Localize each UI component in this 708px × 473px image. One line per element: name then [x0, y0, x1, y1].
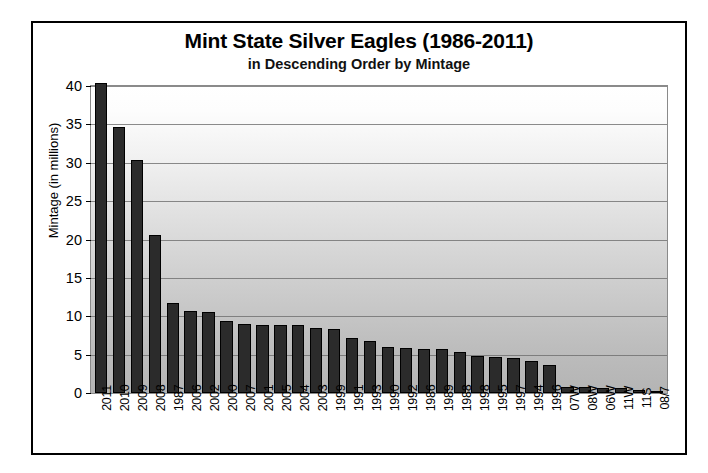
bar-slot: [558, 86, 576, 393]
bar-slot: [594, 86, 612, 393]
y-tick-label: 40: [66, 78, 82, 94]
bar-slot: [325, 86, 343, 393]
y-tick-label: 30: [66, 155, 82, 171]
bar-slot: [289, 86, 307, 393]
bar[interactable]: [310, 328, 322, 393]
bar-slot: [433, 86, 451, 393]
x-label-slot: 2011: [91, 396, 109, 450]
y-tick-label: 10: [66, 308, 82, 324]
bar-slot: [92, 86, 110, 393]
bar[interactable]: [167, 303, 179, 393]
bar[interactable]: [292, 325, 304, 393]
x-label-slot: 2000: [217, 396, 235, 450]
y-tick-label: 25: [66, 193, 82, 209]
bar[interactable]: [113, 127, 125, 393]
bar-slot: [146, 86, 164, 393]
x-label-slot: 1996: [541, 396, 559, 450]
bar-slot: [128, 86, 146, 393]
bar-slot: [236, 86, 254, 393]
bar[interactable]: [274, 325, 286, 393]
bar-slot: [415, 86, 433, 393]
x-label-slot: 1989: [433, 396, 451, 450]
y-tick-mark: [86, 393, 91, 394]
bar-slot: [487, 86, 505, 393]
x-label-slot: 1988: [451, 396, 469, 450]
bar-slot: [451, 86, 469, 393]
x-label-slot: 2008: [145, 396, 163, 450]
bar[interactable]: [131, 160, 143, 393]
bar-slot: [540, 86, 558, 393]
x-label-slot: 1990: [379, 396, 397, 450]
bar-slot: [182, 86, 200, 393]
bar[interactable]: [238, 324, 250, 393]
x-label-slot: 1987: [163, 396, 181, 450]
bar-slot: [164, 86, 182, 393]
bar[interactable]: [149, 235, 161, 393]
bar-slot: [576, 86, 594, 393]
bar-slot: [343, 86, 361, 393]
x-label-slot: 2001: [253, 396, 271, 450]
x-label-slot: 11W: [613, 396, 631, 450]
x-label-slot: 2007: [235, 396, 253, 450]
x-label-slot: 2010: [109, 396, 127, 450]
bar[interactable]: [256, 325, 268, 393]
x-label-slot: 2002: [199, 396, 217, 450]
x-label-slot: 2005: [271, 396, 289, 450]
x-label-slot: 1993: [361, 396, 379, 450]
bar-slot: [469, 86, 487, 393]
bar-slot: [397, 86, 415, 393]
x-label-slot: 2003: [307, 396, 325, 450]
bar[interactable]: [220, 321, 232, 393]
y-tick-label: 15: [66, 270, 82, 286]
x-label-slot: 11S: [631, 396, 649, 450]
x-axis-labels: 2011201020092008198720062002200020072001…: [90, 396, 668, 450]
bar-slot: [307, 86, 325, 393]
x-label-slot: 1999: [325, 396, 343, 450]
x-label-slot: 1998: [469, 396, 487, 450]
bar-slot: [505, 86, 523, 393]
bar-slot: [200, 86, 218, 393]
bar[interactable]: [184, 311, 196, 393]
x-label-slot: 07W: [559, 396, 577, 450]
x-label-slot: 1986: [415, 396, 433, 450]
y-tick-label: 20: [66, 232, 82, 248]
x-label-slot: 06W: [595, 396, 613, 450]
x-label-slot: 2004: [289, 396, 307, 450]
chart-title: Mint State Silver Eagles (1986-2011): [33, 29, 685, 53]
y-axis-label: Mintage (in millions): [46, 91, 61, 271]
x-label-slot: 08W: [577, 396, 595, 450]
bar-series: [91, 86, 667, 393]
x-label-slot: 1994: [523, 396, 541, 450]
plot-area: 0510152025303540: [90, 85, 668, 394]
y-tick-label: 5: [74, 347, 82, 363]
chart-subtitle: in Descending Order by Mintage: [33, 56, 685, 72]
bar-slot: [253, 86, 271, 393]
chart-frame: Mint State Silver Eagles (1986-2011) in …: [31, 21, 687, 455]
bar-slot: [523, 86, 541, 393]
x-tick-label: 08/7: [658, 386, 672, 409]
bar-slot: [361, 86, 379, 393]
x-label-slot: 1991: [343, 396, 361, 450]
x-label-slot: 1995: [487, 396, 505, 450]
bar[interactable]: [95, 83, 107, 393]
bar-slot: [218, 86, 236, 393]
x-label-slot: 08/7: [649, 396, 667, 450]
y-tick-label: 35: [66, 116, 82, 132]
bar-slot: [271, 86, 289, 393]
x-label-slot: 1992: [397, 396, 415, 450]
x-label-slot: 2009: [127, 396, 145, 450]
y-tick-label: 0: [74, 385, 82, 401]
bar-slot: [648, 86, 666, 393]
bar[interactable]: [202, 312, 214, 393]
bar-slot: [379, 86, 397, 393]
bar-slot: [612, 86, 630, 393]
x-label-slot: 1997: [505, 396, 523, 450]
x-label-slot: 2006: [181, 396, 199, 450]
bar-slot: [630, 86, 648, 393]
bar-slot: [110, 86, 128, 393]
